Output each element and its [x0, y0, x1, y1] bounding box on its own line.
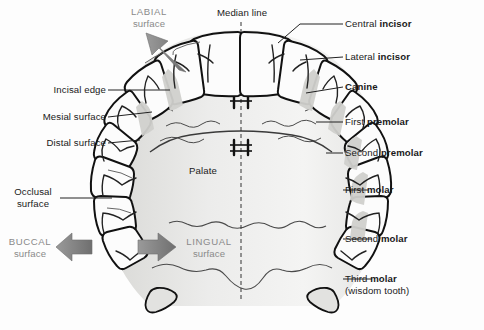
- label-lateral-incisor-bold: incisor: [378, 51, 410, 62]
- label-first-premolar-bold: premolar: [367, 116, 409, 127]
- label-canine: Canine: [345, 81, 378, 93]
- label-first-molar-bold: molar: [367, 184, 394, 195]
- label-central-incisor-bold: incisor: [379, 18, 411, 29]
- label-first-molar-pre: First: [345, 184, 367, 195]
- label-canine-bold: Canine: [345, 81, 378, 92]
- buccal-arrow: [56, 233, 92, 261]
- label-buccal-surface: BUCCAL surface: [2, 236, 58, 260]
- label-mesial-surface: Mesial surface: [8, 111, 106, 123]
- label-central-incisor: Central incisor: [345, 18, 412, 30]
- label-lateral-incisor: Lateral incisor: [345, 51, 410, 63]
- label-second-premolar-pre: Second: [345, 147, 381, 158]
- label-buccal-sub: surface: [2, 248, 58, 260]
- label-first-premolar: First premolar: [345, 116, 409, 128]
- label-second-premolar: Second premolar: [345, 147, 423, 159]
- label-second-premolar-bold: premolar: [381, 147, 423, 158]
- label-labial-surface: LABIAL surface: [118, 6, 180, 30]
- label-first-premolar-pre: First: [345, 116, 367, 127]
- label-second-molar-pre: Second: [345, 233, 381, 244]
- label-first-molar: First molar: [345, 184, 394, 196]
- dental-arch-illustration: [0, 0, 484, 330]
- label-central-incisor-pre: Central: [345, 18, 379, 29]
- dental-arch-figure: LABIAL surface Median line Incisal edge …: [0, 0, 484, 330]
- label-lingual-cap: LINGUAL: [186, 236, 231, 247]
- label-third-molar-pre: Third: [345, 273, 370, 284]
- label-occlusal-cap: Occlusal: [14, 186, 52, 197]
- label-second-molar: Second molar: [345, 233, 408, 245]
- label-labial-cap: LABIAL: [131, 6, 167, 17]
- label-incisal-edge: Incisal edge: [8, 84, 106, 96]
- label-lingual-sub: surface: [178, 248, 240, 260]
- label-second-molar-bold: molar: [381, 233, 408, 244]
- label-lateral-incisor-pre: Lateral: [345, 51, 378, 62]
- label-occlusal-sub: surface: [6, 198, 60, 210]
- label-lingual-surface: LINGUAL surface: [178, 236, 240, 260]
- label-distal-surface: Distal surface: [8, 137, 106, 149]
- label-palate: Palate: [172, 165, 234, 177]
- label-third-molar-sub: (wisdom tooth): [345, 285, 409, 297]
- label-labial-sub: surface: [118, 18, 180, 30]
- label-median-line: Median line: [194, 7, 290, 19]
- label-buccal-cap: BUCCAL: [9, 236, 52, 247]
- label-third-molar-bold: molar: [370, 273, 397, 284]
- label-third-molar: Third molar(wisdom tooth): [345, 273, 409, 297]
- label-occlusal-surface: Occlusal surface: [6, 186, 60, 210]
